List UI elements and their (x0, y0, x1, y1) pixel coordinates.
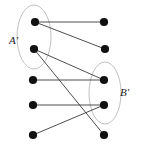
right-set-label: B' (120, 86, 130, 98)
node-R2 (101, 45, 109, 53)
left-set-label: A' (8, 34, 19, 46)
node-R5 (100, 131, 108, 139)
node-R1 (100, 18, 108, 26)
node-L2 (30, 45, 38, 53)
node-L3 (29, 76, 37, 84)
node-L4 (29, 101, 37, 109)
graph-canvas: A' B' (0, 0, 141, 149)
node-L1 (31, 18, 39, 26)
bipartite-graph-figure: A' B' (0, 0, 141, 149)
node-R4 (100, 101, 108, 109)
node-L5 (29, 131, 37, 139)
node-R3 (100, 76, 108, 84)
